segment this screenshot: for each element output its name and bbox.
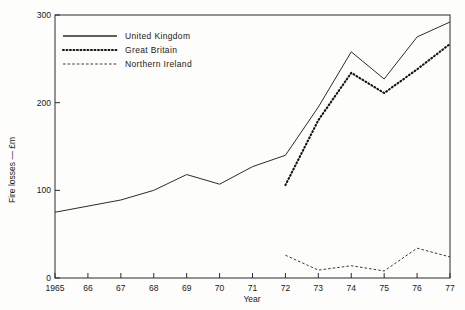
chart-figure: 0100200300 1965666768697071727374757677 … xyxy=(0,0,465,310)
x-tick-label-69: 69 xyxy=(182,283,192,293)
x-tick-label-75: 75 xyxy=(379,283,389,293)
plot-frame xyxy=(55,15,450,278)
x-tick-label-73: 73 xyxy=(314,283,324,293)
line-chart-svg: 0100200300 1965666768697071727374757677 … xyxy=(0,0,465,310)
series-line-northern-ireland xyxy=(285,248,450,271)
x-tick-label-68: 68 xyxy=(149,283,159,293)
x-tick-label-77: 77 xyxy=(445,283,455,293)
y-tick-label-300: 300 xyxy=(37,10,51,20)
legend-label-united-kingdom: United Kingdom xyxy=(125,31,190,41)
legend-label-northern-ireland: Northern Ireland xyxy=(125,59,192,69)
y-axis-title: Fire losses — £m xyxy=(7,137,17,203)
x-axis: 1965666768697071727374757677 xyxy=(46,273,455,293)
legend: United Kingdom Great Britain Northern Ir… xyxy=(63,31,192,69)
y-tick-label-200: 200 xyxy=(37,98,51,108)
series-line-united-kingdom xyxy=(55,22,450,212)
y-tick-label-100: 100 xyxy=(37,185,51,195)
y-tick-label-0: 0 xyxy=(46,273,51,283)
x-tick-label-71: 71 xyxy=(248,283,258,293)
y-axis: 0100200300 xyxy=(37,10,60,283)
x-tick-label-67: 67 xyxy=(116,283,126,293)
x-tick-label-72: 72 xyxy=(281,283,291,293)
x-axis-title: Year xyxy=(243,294,260,304)
x-tick-label-76: 76 xyxy=(412,283,422,293)
legend-label-great-britain: Great Britain xyxy=(125,45,177,55)
x-tick-label-74: 74 xyxy=(347,283,357,293)
x-tick-label-66: 66 xyxy=(83,283,93,293)
x-tick-label-70: 70 xyxy=(215,283,225,293)
x-tick-label-1965: 1965 xyxy=(46,283,65,293)
